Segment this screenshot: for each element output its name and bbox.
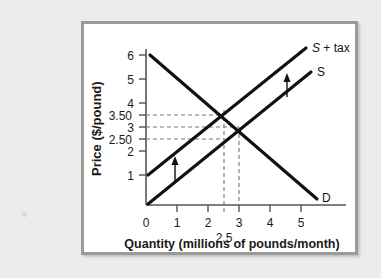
y-tick-label-2: 2 (127, 145, 134, 159)
curve-label-d: D (322, 191, 331, 205)
page-background: Price ($/pound) 6 5 4 3.50 3 2.50 2 1 (0, 0, 381, 278)
supply-plus-tax-curve (148, 48, 306, 175)
y-tick-label-1: 1 (127, 169, 134, 183)
y-axis-title: Price ($/pound) (89, 81, 104, 176)
scan-speck-left (22, 212, 27, 217)
curve-label-s-plus-tax-suffix: + tax (320, 41, 350, 55)
supply-demand-chart: Price ($/pound) 6 5 4 3.50 3 2.50 2 1 (84, 24, 355, 252)
y-tick-label-6: 6 (127, 49, 134, 63)
curve-label-s: S (317, 65, 325, 79)
curve-label-s-plus-tax: S + tax (312, 41, 350, 55)
x-tick-label-5: 5 (298, 216, 305, 230)
tax-shift-arrow-lower (172, 156, 179, 182)
y-tick-label-5: 5 (127, 73, 134, 87)
curve-label-s-plus-tax-prefix: S (312, 41, 320, 55)
x-axis-title: Quantity (millions of pounds/month) (124, 237, 339, 251)
x-tick-label-1: 1 (174, 216, 181, 230)
x-tick-label-0: 0 (143, 216, 150, 230)
x-tick-label-2: 2 (205, 216, 212, 230)
figure-panel: Price ($/pound) 6 5 4 3.50 3 2.50 2 1 (81, 21, 358, 255)
x-tick-label-3: 3 (236, 216, 243, 230)
x-tick-label-4: 4 (267, 216, 274, 230)
